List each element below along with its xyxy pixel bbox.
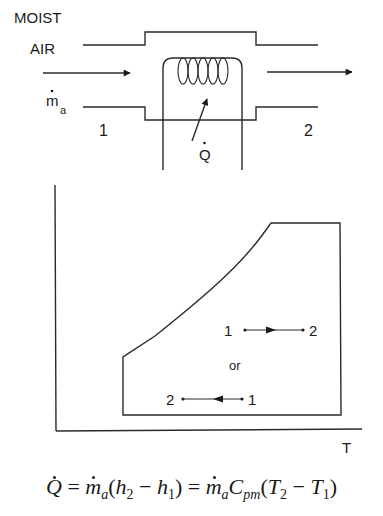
paren-open: ( [260, 474, 267, 499]
cooling-start-label: 1 [248, 391, 256, 408]
heating-coil-icon [178, 58, 228, 84]
heat-rate-label: Q [199, 142, 211, 163]
duct-upper-wall [83, 32, 318, 45]
air-label: AIR [30, 40, 55, 57]
energy-balance-equation: Q = ma(h2 − h1) = maCpm(T2 − T1) [0, 474, 383, 500]
state-point-icon [301, 328, 304, 331]
direction-arrow-icon [213, 396, 223, 403]
specific-heat-subscript: pm [243, 487, 260, 502]
mass-flow-subscript: a [222, 487, 229, 502]
mass-flow-symbol: m [206, 474, 222, 500]
equals-sign: = [67, 474, 79, 499]
heating-start-label: 1 [224, 322, 232, 339]
state-point-icon [240, 397, 243, 400]
time-derivative-dot-icon [51, 90, 54, 93]
mass-flow-subscript: a [60, 104, 67, 116]
paren-close: ) [175, 474, 182, 499]
time-derivative-dot-icon [203, 142, 206, 145]
minus-sign: − [287, 474, 310, 499]
temperature-2: T [268, 474, 280, 499]
mass-flow-symbol: m [85, 474, 101, 500]
specific-heat-symbol: C [229, 474, 244, 499]
paren-close: ) [330, 474, 337, 499]
mass-flow-label: m a [46, 90, 67, 116]
or-label: or [229, 358, 241, 373]
x-axis [56, 429, 362, 431]
paren-open: ( [108, 474, 115, 499]
moist-label: MOIST [14, 9, 62, 26]
outlet-state-label: 2 [304, 122, 313, 139]
heat-symbol: Q [199, 146, 211, 163]
temperature-1: T [310, 474, 322, 499]
enthalpy-2-subscript: 2 [127, 487, 134, 502]
minus-sign: − [134, 474, 157, 499]
direction-arrow-icon [266, 327, 276, 334]
temperature-2-subscript: 2 [280, 487, 287, 502]
region-outline [123, 223, 341, 415]
process-chart: T 1 2 or 2 1 [55, 185, 362, 456]
heat-rate-symbol: Q [46, 474, 62, 500]
enthalpy-1-subscript: 1 [168, 487, 175, 502]
enthalpy-1: h [157, 474, 168, 499]
heating-end-label: 2 [309, 322, 317, 339]
inlet-state-label: 1 [99, 122, 108, 139]
mass-flow-symbol: m [46, 92, 59, 109]
cooling-process: 2 1 [166, 391, 256, 408]
y-axis [55, 185, 56, 431]
equals-sign: = [188, 474, 200, 499]
heating-coil-schematic: MOIST AIR m a 1 2 Q [14, 9, 352, 170]
enthalpy-2: h [116, 474, 127, 499]
cooling-end-label: 2 [166, 391, 174, 408]
x-axis-label: T [342, 439, 351, 456]
diagram-canvas: MOIST AIR m a 1 2 Q [0, 0, 383, 516]
temperature-1-subscript: 1 [323, 487, 330, 502]
heating-process: 1 2 [224, 322, 317, 339]
